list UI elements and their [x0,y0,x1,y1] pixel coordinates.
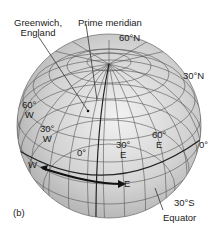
lat-30n-label: 30°N [183,71,204,81]
lat-60n-label: 60°N [119,33,140,43]
equator-label: Equator [163,213,196,223]
lon-60e-label: 60° E [152,130,166,150]
lon-0-edge-label: 0° [199,140,208,150]
prime-meridian-label: Prime meridian [78,18,142,28]
lon-30w-label: 30° W [40,124,54,144]
greenwich-label: Greenwich, England [14,18,62,38]
globe-diagram: Greenwich, England Prime meridian 60°N 3… [0,0,216,239]
figure-label: (b) [13,208,25,218]
lat-30s-label: 30°S [174,198,195,208]
lon-30e-label: 30° E [116,140,130,160]
lon-60w-label: 60° W [22,100,36,120]
lon-0-label: 0° [77,148,86,158]
west-label: W [28,160,37,170]
east-label: E [124,179,130,189]
